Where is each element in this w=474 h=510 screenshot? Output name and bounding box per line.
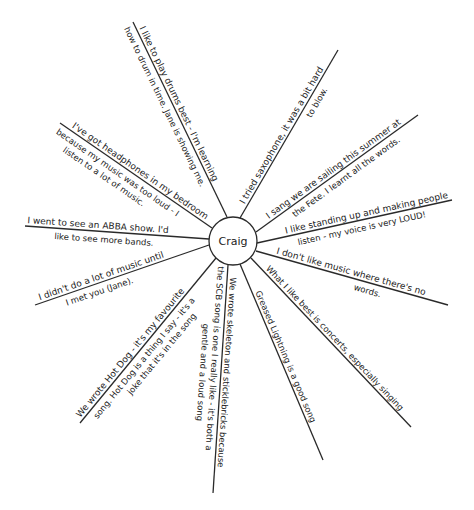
- center-label: Craig: [219, 235, 248, 248]
- branch-text: because my music was too loud - I: [54, 127, 181, 219]
- branch-text: listen to a lot of music.: [61, 145, 147, 208]
- branch-text: song. Hot Dog is a thing I say - it's a: [91, 295, 197, 420]
- branch-until-you: I didn't do a lot of music until I met y…: [37, 250, 169, 316]
- branch-text: We wrote Hot Dog - it's my favourite: [74, 286, 187, 420]
- center-node: Craig: [209, 217, 257, 265]
- branch-skeleton: We wrote skeleton and sticklebricks beca…: [192, 265, 239, 467]
- branch-text: I don't like music where there's no: [276, 246, 428, 298]
- branch-text: I went to see an ABBA show. I'd: [27, 215, 169, 235]
- spoke-greased-lightning: [240, 264, 323, 460]
- branch-hot-dog: We wrote Hot Dog - it's my favourite son…: [74, 286, 206, 435]
- branch-text: I like to play drums best - I'm learning: [137, 24, 220, 182]
- spider-diagram: Craig I like to play drums best - I'm le…: [0, 0, 474, 510]
- branch-abba: I went to see an ABBA show. I'd like to …: [26, 215, 169, 249]
